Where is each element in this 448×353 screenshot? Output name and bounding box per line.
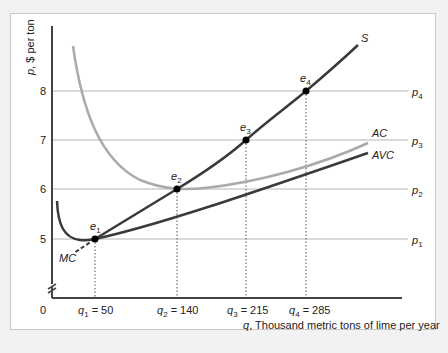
- e2-marker: [174, 186, 181, 193]
- p4-label: p4: [411, 86, 423, 101]
- s-curve-label: S: [361, 32, 369, 44]
- origin-label: 0: [40, 304, 46, 316]
- price-labels: p4 p3 p2 p1: [411, 86, 423, 249]
- quantity-labels: q1 = 50 q2 = 140 q3 = 215 q4 = 285: [78, 304, 330, 319]
- ac-curve-label: AC: [371, 127, 387, 139]
- q4-label: q4 = 285: [289, 304, 330, 319]
- e3-marker: [243, 137, 250, 144]
- quantity-dropdown-lines: [95, 91, 306, 298]
- p1-label: p1: [411, 234, 423, 249]
- q2-label: q2 = 140: [157, 304, 198, 319]
- x-axis-title: q, Thousand metric tons of lime per year: [243, 319, 440, 331]
- mc-curve-label: MC: [59, 252, 76, 264]
- e3-label: e3: [240, 121, 251, 136]
- price-gridlines: [52, 91, 408, 239]
- avc-curve: [95, 153, 368, 239]
- p2-label: p2: [411, 184, 423, 199]
- supply-curve: [95, 45, 358, 239]
- cost-curves-chart: p, $ per ton 8 7 6 5 0 p4 p3 p2 p1 S AC …: [0, 0, 448, 353]
- y-tick-5: 5: [40, 233, 46, 245]
- y-tick-7: 7: [40, 134, 46, 146]
- e4-label: e4: [300, 72, 311, 87]
- p3-label: p3: [411, 135, 423, 150]
- e2-label: e2: [171, 170, 182, 185]
- y-tick-6: 6: [40, 183, 46, 195]
- y-tick-8: 8: [40, 85, 46, 97]
- avc-curve-label: AVC: [371, 149, 394, 161]
- axes: [52, 26, 402, 298]
- e1-marker: [92, 236, 99, 243]
- equilibrium-points: [92, 88, 310, 243]
- y-axis-title: p, $ per ton: [24, 19, 36, 76]
- e1-label: e1: [90, 220, 101, 235]
- q3-label: q3 = 215: [227, 304, 268, 319]
- e4-marker: [303, 88, 310, 95]
- q1-label: q1 = 50: [78, 304, 113, 319]
